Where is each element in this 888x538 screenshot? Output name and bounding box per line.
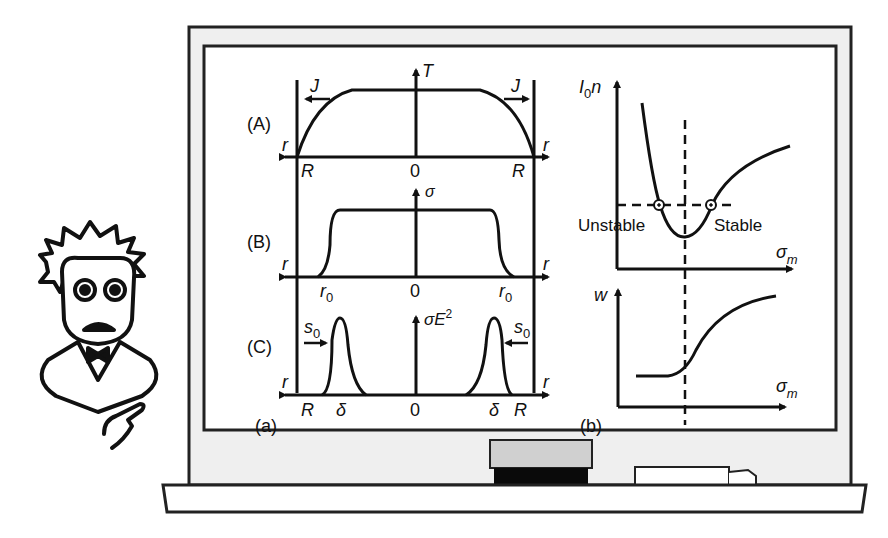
svg-text:R: R [514,400,527,420]
svg-text:0: 0 [410,400,420,420]
svg-text:r: r [282,254,289,274]
svg-text:0: 0 [410,281,420,301]
svg-text:(a): (a) [255,416,277,436]
svg-text:R: R [301,400,314,420]
svg-text:r: r [543,372,550,392]
svg-text:(b): (b) [580,416,602,436]
svg-text:Unstable: Unstable [578,216,645,235]
svg-text:J: J [510,76,521,96]
svg-text:0: 0 [410,161,420,181]
eraser [490,440,592,486]
svg-text:σ: σ [425,183,436,200]
svg-text:δ: δ [336,400,347,420]
svg-text:Stable: Stable [714,216,762,235]
blackboard-illustration: (A) T J J r r R 0 R (B) σ r r r0 0 r0 (C… [0,0,888,538]
svg-text:(A): (A) [247,114,271,134]
svg-text:r: r [282,135,289,155]
svg-text:r: r [282,372,289,392]
svg-text:J: J [309,76,320,96]
svg-text:r: r [543,135,550,155]
chalk-tray [163,485,866,512]
svg-text:r: r [543,254,550,274]
svg-text:δ: δ [489,400,500,420]
svg-text:w: w [594,285,608,305]
svg-text:R: R [512,161,525,181]
professor-icon [40,222,156,448]
svg-text:(B): (B) [247,232,271,252]
svg-text:(C): (C) [247,337,272,357]
svg-text:R: R [301,161,314,181]
